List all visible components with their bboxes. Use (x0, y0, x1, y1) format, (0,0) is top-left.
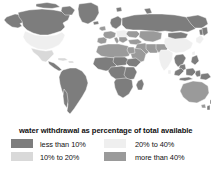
legend-label-10-to-20: 10% to 20% (40, 153, 79, 162)
region-mongolia (168, 32, 188, 39)
legend-swatch-more-than-40 (104, 152, 126, 161)
region-north-africa (96, 44, 131, 58)
map-legend: water withdrawal as percentage of total … (0, 120, 211, 170)
map-panel (0, 0, 211, 120)
region-new-zealand-south (207, 105, 210, 110)
legend-label-20-to-40: 20% to 40% (135, 140, 174, 149)
water-withdrawal-map-figure: water withdrawal as percentage of total … (0, 0, 211, 170)
legend-label-more-than-40: more than 40% (135, 153, 184, 162)
region-new-zealand (210, 99, 211, 104)
legend-swatch-less-than-10 (11, 139, 33, 148)
legend-swatch-10-to-20 (11, 152, 33, 161)
world-map (0, 0, 211, 120)
region-tasmania (201, 104, 206, 108)
region-hispaniola (68, 61, 74, 63)
legend-label-less-than-10: less than 10% (40, 140, 86, 149)
legend-title: water withdrawal as percentage of total … (19, 126, 193, 135)
legend-swatch-20-to-40 (104, 139, 126, 148)
region-sri-lanka (168, 70, 171, 74)
region-iceland (93, 21, 99, 25)
region-svalbard (116, 7, 122, 12)
